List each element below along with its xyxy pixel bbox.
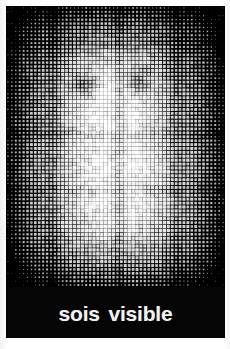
poster-page: sois visible [0, 0, 230, 349]
caption-text: sois visible [59, 303, 173, 324]
caption-band: sois visible [6, 287, 225, 338]
bottom-white-strip [0, 338, 230, 349]
halftone-artwork [6, 6, 225, 287]
halftone-dot-portrait [6, 6, 225, 287]
